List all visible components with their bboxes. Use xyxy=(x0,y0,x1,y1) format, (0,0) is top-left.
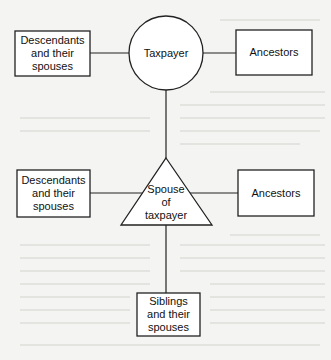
siblings-label: Siblings and their spouses xyxy=(137,293,200,336)
taxpayer-ancestors-label: Ancestors xyxy=(236,30,312,75)
spouse-descendants-label: Descendants and their spouses xyxy=(17,170,90,217)
spouse-label: Spouse of taxpayer xyxy=(136,180,196,224)
taxpayer-descendants-label: Descendants and their spouses xyxy=(15,31,90,76)
spouse-ancestors-label: Ancestors xyxy=(238,170,314,216)
taxpayer-label: Taxpayer xyxy=(129,16,203,90)
